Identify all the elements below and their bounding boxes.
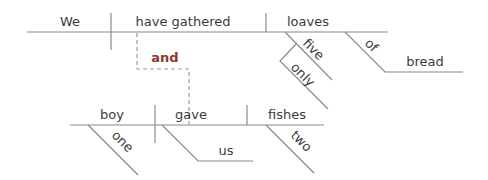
clause1-subject: We xyxy=(60,14,80,29)
only-modifier: only xyxy=(288,60,318,90)
indirect-object-line xyxy=(162,125,253,161)
conjunction-and: and xyxy=(151,50,178,65)
prep-object-bread: bread xyxy=(406,54,444,69)
clause1-verb: have gathered xyxy=(136,14,231,29)
clause2-subject: boy xyxy=(100,107,124,122)
clause2-verb: gave xyxy=(175,107,207,122)
five-modifier: five xyxy=(300,36,327,63)
indirect-object-us: us xyxy=(218,143,233,158)
prepositional-phrase-line xyxy=(345,32,463,72)
one-modifier: one xyxy=(109,128,137,156)
clause2-object: fishes xyxy=(268,107,306,122)
sentence-diagram: We have gathered loaves five only of bre… xyxy=(0,0,488,180)
clause1-object: loaves xyxy=(287,14,329,29)
